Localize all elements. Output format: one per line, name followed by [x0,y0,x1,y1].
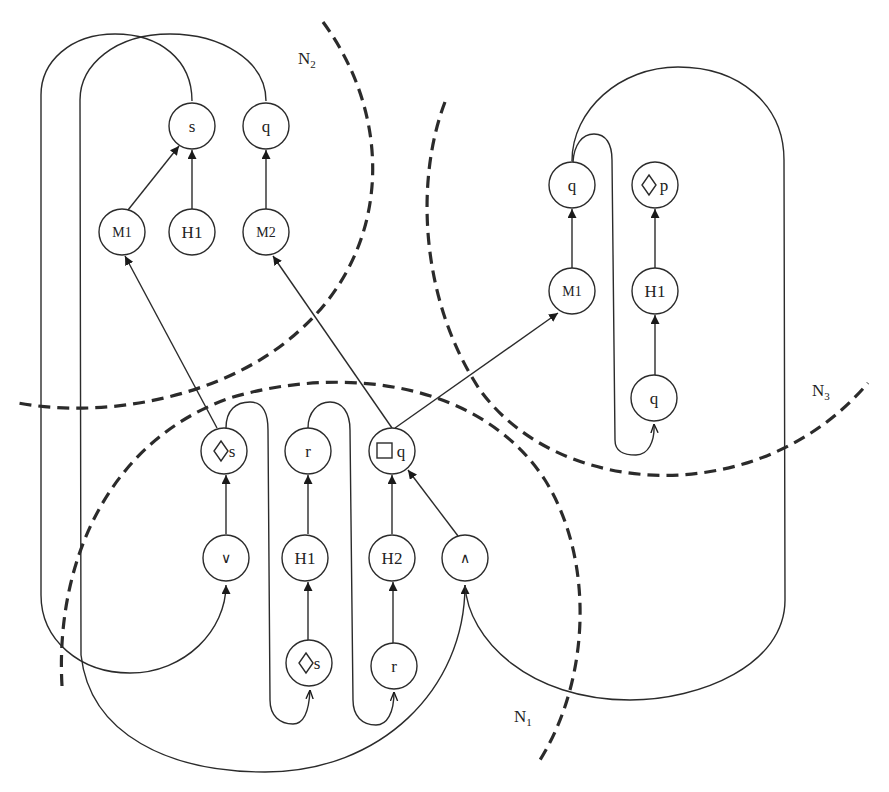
node-box-q-n1: q [369,428,415,474]
svg-text:s: s [189,117,196,136]
edge-box-q-to-m1-n3 [395,313,558,428]
node-q-n2: q [243,103,289,149]
edge-m1-to-s [128,146,179,210]
node-diamond-p-n3: p [632,162,678,208]
modal-logic-tableau-diagram: N2 N3 N1 s q M1 H1 M2 [0,0,889,792]
svg-text:∧: ∧ [460,551,470,566]
node-and-n1: ∧ [442,535,488,581]
node-h2-n1: H2 [369,535,415,581]
node-s-n2: s [169,103,215,149]
svg-text:q: q [262,117,271,136]
loop-q-n3-to-and [465,67,785,700]
svg-text:H2: H2 [382,549,403,568]
svg-text:p: p [660,176,669,195]
region-label-n3: N3 [812,381,830,402]
svg-text:M1: M1 [562,284,581,299]
svg-text:M1: M1 [112,225,131,240]
node-q-top-n3: q [549,162,595,208]
svg-text:s: s [229,442,236,461]
node-diamond-s-bottom-n1: s [286,640,332,686]
svg-text:r: r [391,657,397,676]
node-h1-n2: H1 [169,209,215,255]
region-label-n2: N2 [298,49,316,70]
svg-text:H1: H1 [645,282,666,301]
node-or-n1: ∨ [203,535,249,581]
node-m1-n3: M1 [549,268,595,314]
svg-text:q: q [397,442,406,461]
svg-text:q: q [650,389,659,408]
svg-text:M2: M2 [256,225,275,240]
svg-text:H1: H1 [182,223,203,242]
node-m2-n2: M2 [243,209,289,255]
node-q-bottom-n3: q [631,375,677,421]
svg-text:∨: ∨ [221,551,231,566]
node-r-top-n1: r [285,428,331,474]
node-h1-n1: H1 [282,535,328,581]
edge-and-to-box-q [408,470,458,536]
node-r-bottom-n1: r [371,643,417,689]
node-h1-n3: H1 [632,268,678,314]
region-label-n1: N1 [514,707,532,728]
svg-text:q: q [568,176,577,195]
node-m1-n2: M1 [99,209,145,255]
svg-text:s: s [314,654,321,673]
node-diamond-s-top-n1: s [201,428,247,474]
svg-text:H1: H1 [295,549,316,568]
svg-text:r: r [305,442,311,461]
